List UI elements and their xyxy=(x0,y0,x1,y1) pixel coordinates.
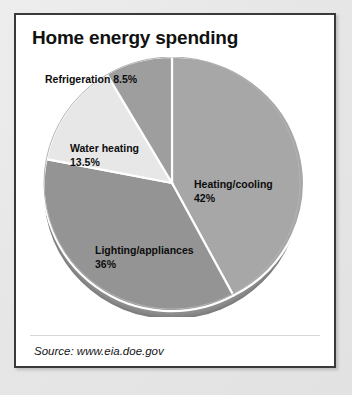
page-background: Home energy spending xyxy=(0,0,352,395)
pie-chart-plot-area: Refrigeration 8.5% Water heating 13.5% H… xyxy=(16,15,334,366)
source-divider xyxy=(30,335,320,336)
pie-label-lighting-appliances-value: 36% xyxy=(95,257,194,271)
pie-label-water-heating-value: 13.5% xyxy=(70,155,139,169)
pie-label-water-heating: Water heating 13.5% xyxy=(70,141,139,169)
pie-label-lighting-appliances-name: Lighting/appliances xyxy=(95,244,194,256)
pie-label-refrigeration-text: Refrigeration 8.5% xyxy=(45,73,137,85)
pie-label-water-heating-name: Water heating xyxy=(70,142,139,154)
pie-label-heating-cooling: Heating/cooling 42% xyxy=(194,177,273,205)
pie-label-lighting-appliances: Lighting/appliances 36% xyxy=(95,243,194,271)
source-note: Source: www.eia.doe.gov xyxy=(34,345,164,357)
pie-label-heating-cooling-value: 42% xyxy=(194,191,273,205)
pie-label-refrigeration: Refrigeration 8.5% xyxy=(45,72,137,86)
pie-label-heating-cooling-name: Heating/cooling xyxy=(194,178,273,190)
chart-card: Home energy spending xyxy=(14,13,336,368)
